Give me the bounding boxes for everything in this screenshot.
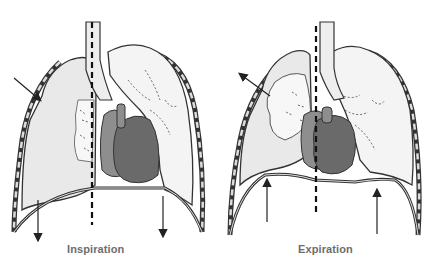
expiration-panel xyxy=(230,22,419,235)
expiration-label: Expiration xyxy=(298,243,353,255)
respiration-diagram xyxy=(0,0,442,272)
inspiration-label: Inspiration xyxy=(67,243,124,255)
diaphragm-expiration xyxy=(230,174,418,235)
inspiration-panel xyxy=(14,22,203,240)
